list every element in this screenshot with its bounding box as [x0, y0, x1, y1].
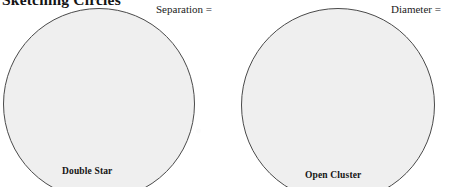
page-title: Sketching Circles: [2, 0, 121, 9]
circle-caption-open-cluster: Open Cluster: [305, 170, 361, 180]
field-label-diameter: Diameter =: [391, 3, 441, 15]
worksheet-page: Sketching Circles Separation = Double St…: [0, 0, 451, 187]
sketch-circle-open-cluster[interactable]: [241, 8, 435, 187]
field-label-separation: Separation =: [156, 3, 212, 15]
circle-caption-double-star: Double Star: [62, 166, 112, 176]
sketch-circle-double-star[interactable]: [3, 8, 195, 187]
